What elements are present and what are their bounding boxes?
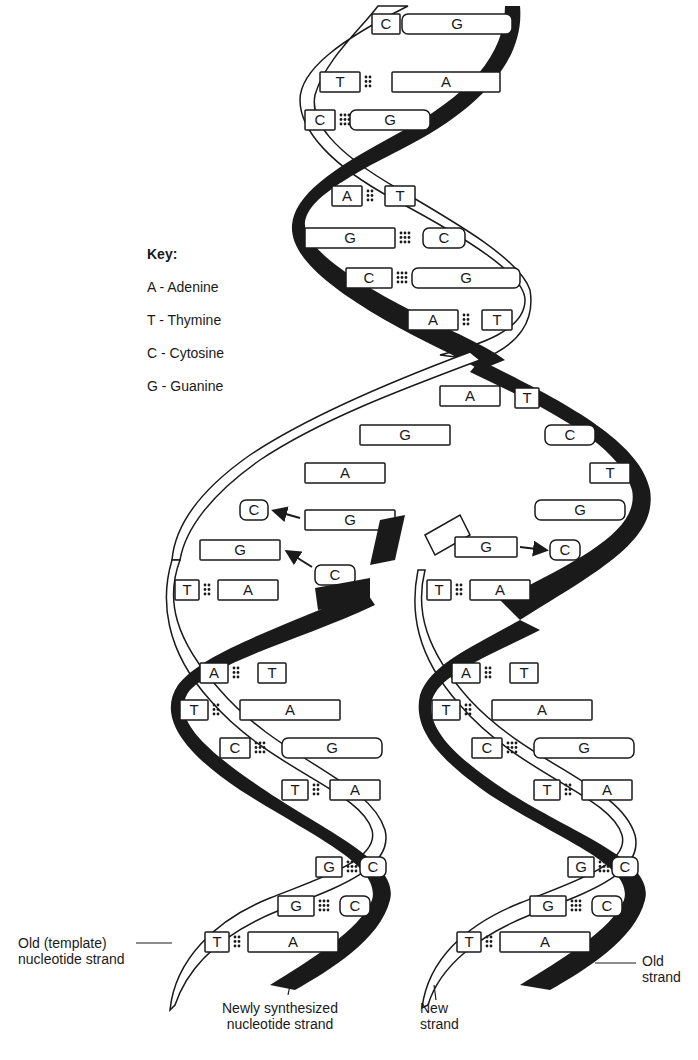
hydrogen-bond-dot xyxy=(408,236,411,239)
hydrogen-bond-dot xyxy=(463,314,466,317)
arrow-icon xyxy=(275,511,300,518)
base-pair: GC xyxy=(278,896,370,916)
hydrogen-bond-dot xyxy=(603,861,606,864)
label-old-template-strand: Old (template) nucleotide strand xyxy=(18,935,125,967)
hydrogen-bond-dot xyxy=(467,318,470,321)
hydrogen-bond-dot xyxy=(344,114,347,117)
hydrogen-bond-dot xyxy=(351,865,354,868)
base-letter: G xyxy=(384,111,396,128)
base-pair: TA xyxy=(205,932,338,952)
hydrogen-bond-dot xyxy=(469,713,472,716)
hydrogen-bond-dot xyxy=(486,940,489,943)
hydrogen-bond-dot xyxy=(405,281,408,284)
base-letter: A xyxy=(537,701,547,718)
hydrogen-bond-dot xyxy=(515,751,518,754)
base-letter: T xyxy=(522,389,531,406)
hydrogen-bond-dot xyxy=(371,194,374,197)
base-letter: C xyxy=(565,426,576,443)
hydrogen-bond-dot xyxy=(351,861,354,864)
base-letter: A xyxy=(350,781,360,798)
hydrogen-bond-dot xyxy=(234,940,237,943)
hydrogen-bond-dot xyxy=(456,584,459,587)
hydrogen-bond-dot xyxy=(355,861,358,864)
label-old-strand: Old strand xyxy=(642,953,681,985)
key-title: Key: xyxy=(147,246,224,262)
hydrogen-bond-dot xyxy=(408,232,411,235)
base-letter: G xyxy=(290,897,302,914)
hydrogen-bond-dot xyxy=(340,114,343,117)
label-line: nucleotide strand xyxy=(18,951,125,967)
base-letter: C xyxy=(315,111,326,128)
hydrogen-bond-dot xyxy=(401,276,404,279)
hydrogen-bond-dot xyxy=(340,118,343,121)
base-letter: G xyxy=(399,426,411,443)
label-line: strand xyxy=(642,969,681,985)
base-letter: G xyxy=(344,511,356,528)
base-letter: C xyxy=(560,541,571,558)
hydrogen-bond-dot xyxy=(507,742,510,745)
base-letter: C xyxy=(249,501,260,518)
hydrogen-bond-dot xyxy=(465,704,468,707)
base-pair: CG xyxy=(220,738,382,758)
base-letter: G xyxy=(326,739,338,756)
label-line: strand xyxy=(420,1016,459,1032)
hydrogen-bond-dot xyxy=(208,588,211,591)
base-letter: G xyxy=(480,538,492,555)
hydrogen-bond-dot xyxy=(460,584,463,587)
hydrogen-bond-dot xyxy=(569,788,572,791)
base-letter: G xyxy=(451,15,463,32)
hydrogen-bond-dot xyxy=(369,85,372,88)
daughter-helix-left: TAATTACGTAGCGCTA xyxy=(166,560,390,1010)
hydrogen-bond-dot xyxy=(603,865,606,868)
base-letter: A xyxy=(602,781,612,798)
hydrogen-bond-dot xyxy=(485,676,488,679)
key-item-cytosine: C - Cytosine xyxy=(147,345,224,361)
base-letter: A xyxy=(340,464,350,481)
base-letter: T xyxy=(434,581,443,598)
base-pair: TA xyxy=(175,580,278,600)
base-pair: CG xyxy=(372,14,512,34)
hydrogen-bond-dot xyxy=(515,746,518,749)
hydrogen-bond-dot xyxy=(565,793,568,796)
hydrogen-bond-dot xyxy=(489,676,492,679)
hydrogen-bond-dot xyxy=(233,667,236,670)
base-letter: T xyxy=(519,664,528,681)
base-letter: C xyxy=(350,897,361,914)
hydrogen-bond-dot xyxy=(313,788,316,791)
label-line: nucleotide strand xyxy=(222,1016,338,1032)
base-pair: TA xyxy=(320,72,500,92)
hydrogen-bond-dot xyxy=(485,671,488,674)
base-letter: G xyxy=(578,739,590,756)
hydrogen-bond-dot xyxy=(465,713,468,716)
hydrogen-bond-dot xyxy=(405,272,408,275)
base-pair: GC xyxy=(530,896,622,916)
label-line: Old (template) xyxy=(18,935,125,951)
hydrogen-bond-dot xyxy=(259,751,262,754)
hydrogen-bond-dot xyxy=(405,276,408,279)
hydrogen-bond-dot xyxy=(565,788,568,791)
hydrogen-bond-dot xyxy=(490,936,493,939)
base-letter: C xyxy=(482,739,493,756)
hydrogen-bond-dot xyxy=(327,900,330,903)
hydrogen-bond-dot xyxy=(607,861,610,864)
hydrogen-bond-dot xyxy=(511,746,514,749)
hydrogen-bond-dot xyxy=(217,713,220,716)
hydrogen-bond-dot xyxy=(456,588,459,591)
hydrogen-bond-dot xyxy=(317,784,320,787)
arrow-icon xyxy=(288,552,312,567)
base-letter: A xyxy=(428,311,438,328)
hydrogen-bond-dot xyxy=(238,945,241,948)
base-letter: T xyxy=(395,187,404,204)
hydrogen-bond-dot xyxy=(317,793,320,796)
base-letter: T xyxy=(212,933,221,950)
hydrogen-bond-dot xyxy=(401,272,404,275)
hydrogen-bond-dot xyxy=(323,909,326,912)
hydrogen-bond-dot xyxy=(511,751,514,754)
dna-replication-diagram: CGTACGATGCCGAT AGATCTG CGGCGC TAATTACGTA… xyxy=(0,0,698,1060)
hydrogen-bond-dot xyxy=(579,904,582,907)
label-line: New xyxy=(420,1000,459,1016)
arrow-icon xyxy=(520,547,545,550)
hydrogen-bond-dot xyxy=(213,708,216,711)
hydrogen-bond-dot xyxy=(401,281,404,284)
hydrogen-bond-dot xyxy=(255,751,258,754)
